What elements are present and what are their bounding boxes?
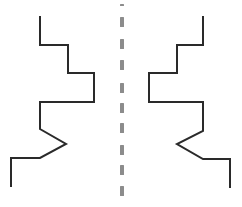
axis-dash (120, 60, 124, 70)
axis-dash (120, 145, 124, 155)
axis-dash (120, 39, 124, 49)
axis-dash (120, 103, 124, 113)
axis-dash (120, 4, 124, 6)
axis-dash (120, 165, 124, 175)
axis-dash (120, 186, 124, 196)
left-stepped-figure (11, 16, 94, 187)
axis-dash (120, 83, 124, 93)
axis-dash (120, 123, 124, 133)
right-mirrored-figure (149, 16, 230, 188)
axis-dash (120, 17, 124, 27)
